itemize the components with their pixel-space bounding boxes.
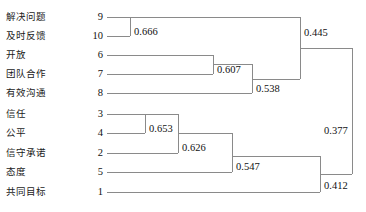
cluster-arm-9-10 <box>130 17 300 18</box>
merge-value-9-10: 0.666 <box>134 27 158 38</box>
merge-connector-9-10 <box>130 17 131 36</box>
leaf-stem-7 <box>107 74 213 75</box>
merge-connector-root <box>352 48 353 174</box>
merge-connector-3-4 <box>145 114 146 133</box>
merge-value-67-8: 0.538 <box>256 84 280 95</box>
merge-value-root: 0.377 <box>324 126 348 137</box>
merge-value-3425-1: 0.412 <box>324 181 348 192</box>
merge-value-34-2: 0.626 <box>182 143 206 154</box>
leaf-stem-4 <box>107 133 145 134</box>
dendrogram-figure: 解决问题 及时反馈 开放 团队合作 有效沟通 信任 公平 信守承诺 态度 共同目… <box>0 0 366 212</box>
cluster-arm-upper <box>300 48 352 49</box>
merge-value-6-7: 0.607 <box>217 65 241 76</box>
cluster-arm-3425 <box>232 156 320 157</box>
leaf-stem-2 <box>107 153 178 154</box>
cluster-arm-3-4 <box>145 114 178 115</box>
leaf-stem-8 <box>107 93 252 94</box>
merge-value-678-910: 0.445 <box>304 28 328 39</box>
cluster-arm-678 <box>252 79 300 80</box>
leaf-stem-6 <box>107 55 213 56</box>
leaf-stem-5 <box>107 172 232 173</box>
merge-value-342-5: 0.547 <box>236 162 260 173</box>
cluster-arm-342 <box>178 133 232 134</box>
leaf-stem-9 <box>107 17 130 18</box>
leaf-stem-3 <box>107 114 145 115</box>
leaf-stem-1 <box>107 192 320 193</box>
merge-value-3-4: 0.653 <box>149 124 173 135</box>
cluster-arm-lower <box>320 174 352 175</box>
leaf-stem-10 <box>107 36 130 37</box>
merge-connector-342-5 <box>232 133 233 172</box>
